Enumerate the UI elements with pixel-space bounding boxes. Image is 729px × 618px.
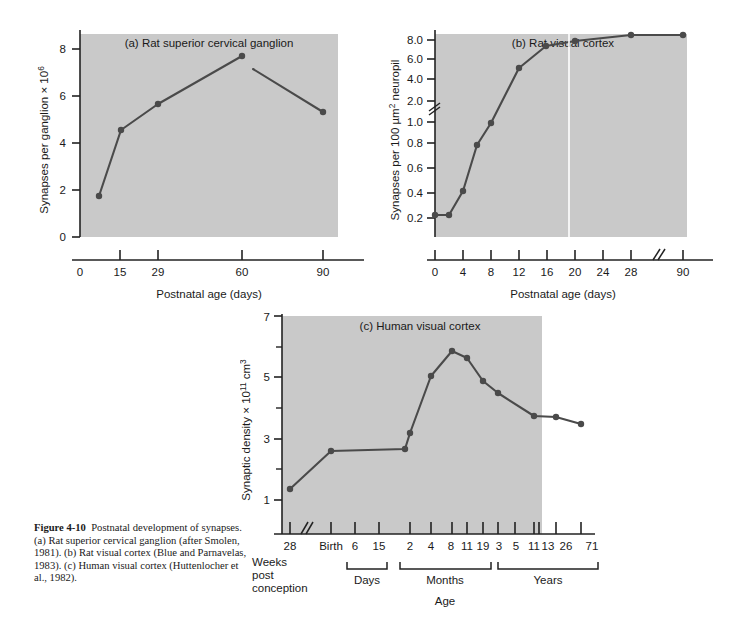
- panel-c-group-label-months: Months: [426, 574, 464, 586]
- panel-c-group-label-weeks-line3: conception: [252, 582, 308, 594]
- panel-b-x-axis-label: Postnatal age (days): [510, 288, 616, 300]
- panel-a-xtick-15: 15: [114, 266, 127, 278]
- panel-c-xtick-11mo: 11: [461, 540, 473, 552]
- panel-a-xtick-60: 60: [236, 266, 249, 278]
- panel-a-point: [118, 127, 124, 133]
- panel-c-ytick-5: 5: [264, 371, 270, 383]
- panel-c-point: [495, 390, 501, 396]
- svg-text:Synapses per 100 µm2 neuropil: Synapses per 100 µm2 neuropil: [388, 60, 401, 221]
- panel-c-xtick-13yr: 13: [542, 540, 555, 552]
- panel-c-point: [328, 448, 334, 454]
- panel-c-xtick-4mo: 4: [428, 540, 435, 552]
- panel-a-point: [96, 193, 102, 199]
- panel-c-xtick-28weeks: 28: [284, 540, 297, 552]
- panel-a-ytick-8: 8: [60, 43, 66, 55]
- panel-a-xtick-90: 90: [317, 266, 330, 278]
- panel-b-y-ticks: [427, 40, 435, 218]
- panel-a-ylabel-exp: 6: [37, 66, 46, 71]
- panel-c-ylabel-text: Synaptic density × 10: [240, 391, 252, 501]
- panel-a-point: [239, 53, 245, 59]
- panel-b-xtick-24: 24: [597, 266, 610, 278]
- panel-a-x-ticks: [120, 250, 323, 260]
- panel-b-ytick-5: 2.0: [407, 95, 423, 107]
- panel-b-rat-visual-cortex: 0.2 0.4 0.6 0.8 1.0 2.0 4.0 6.0 8.0 0 4 …: [383, 22, 723, 302]
- panel-c-xtick-26yr: 26: [560, 540, 573, 552]
- panel-c-point: [449, 348, 455, 354]
- panel-b-point: [572, 38, 578, 44]
- panel-a-point: [320, 109, 326, 115]
- panel-c-xtick-6days: 6: [352, 540, 358, 552]
- panel-b-point: [446, 212, 452, 218]
- panel-a-point: [155, 101, 161, 107]
- panel-b-point: [680, 32, 686, 38]
- panel-c-group-label-weeks-line2: post: [252, 569, 275, 581]
- panel-a-x-axis-label: Postnatal age (days): [156, 288, 262, 300]
- panel-c-human-visual-cortex: 1 3 5 7 28 Birth: [240, 310, 640, 610]
- panel-c-point: [428, 373, 434, 379]
- panel-c-point: [553, 414, 559, 420]
- panel-b-ytick-8: 8.0: [407, 34, 423, 46]
- panel-c-ytick-3: 3: [264, 433, 270, 445]
- panel-a-ytick-2: 2: [60, 184, 66, 196]
- panel-c-xtick-19mo: 19: [477, 540, 490, 552]
- figure-caption: Figure 4-10 Postnatal development of syn…: [34, 522, 250, 585]
- panel-c-xtick-15days: 15: [373, 540, 386, 552]
- panel-b-x-axis-break-icon: [653, 249, 665, 260]
- panel-b-xtick-90: 90: [677, 266, 690, 278]
- panel-c-xtick-5yr: 5: [513, 540, 519, 552]
- panel-a-ytick-0: 0: [60, 231, 66, 243]
- panel-c-x-axis-label: Age: [435, 595, 455, 607]
- panel-b-ytick-6: 4.0: [407, 73, 423, 85]
- panel-a-svg: 0 2 4 6 8 0 15 29 60 90 (a) Rat superior…: [34, 22, 374, 302]
- panel-b-ytick-0: 0.2: [407, 212, 423, 224]
- panel-c-y-axis-label: Synaptic density × 1011 cm3: [240, 359, 252, 501]
- panel-c-group-bracket-years: [498, 562, 598, 569]
- panel-c-group-label-days: Days: [354, 574, 380, 586]
- panel-b-plot-area: [435, 34, 687, 237]
- panel-c-ylabel-tail: cm: [240, 364, 252, 383]
- panel-b-svg: 0.2 0.4 0.6 0.8 1.0 2.0 4.0 6.0 8.0 0 4 …: [383, 22, 723, 302]
- figure-caption-label: Figure 4-10: [34, 522, 86, 533]
- panel-b-xtick-16: 16: [541, 266, 554, 278]
- panel-a-y-ticks: [72, 49, 80, 237]
- panel-a-y-axis-label: Synapses per ganglion × 106: [37, 66, 50, 214]
- panel-c-ytick-7: 7: [264, 311, 270, 323]
- panel-b-ylabel-text: Synapses per 100 µm: [389, 108, 401, 220]
- panel-a-xtick-0: 0: [77, 266, 83, 278]
- panel-b-x-ticks: [435, 250, 683, 260]
- panel-b-point: [543, 43, 549, 49]
- panel-b-y-axis-label: Synapses per 100 µm2 neuropil: [388, 60, 401, 221]
- panel-b-xtick-12: 12: [513, 266, 526, 278]
- panel-a-xtick-29: 29: [152, 266, 165, 278]
- panel-b-ytick-2: 0.6: [407, 162, 423, 174]
- svg-text:Synaptic density × 1011 cm3: Synaptic density × 1011 cm3: [240, 359, 252, 501]
- panel-a-ytick-6: 6: [60, 90, 66, 102]
- panel-c-xtick-11yr: 11: [528, 540, 540, 552]
- panel-c-group-label-years: Years: [534, 574, 563, 586]
- panel-c-group-bracket-months: [400, 562, 491, 569]
- panel-b-point: [460, 188, 466, 194]
- panel-c-svg: 1 3 5 7 28 Birth: [240, 310, 640, 610]
- panel-c-group-label-weeks-line1: Weeks: [252, 556, 287, 568]
- panel-b-ytick-4: 1.0: [407, 116, 423, 128]
- panel-c-point: [578, 421, 584, 427]
- panel-c-xtick-8mo: 8: [448, 540, 454, 552]
- panel-c-point: [287, 486, 293, 492]
- panel-b-point: [474, 142, 480, 148]
- panel-b-ytick-7: 6.0: [407, 53, 423, 65]
- panel-b-point: [628, 32, 634, 38]
- panel-c-xtick-71yr: 71: [586, 540, 599, 552]
- panel-b-ytick-1: 0.4: [407, 187, 424, 199]
- panel-b-xtick-0: 0: [432, 266, 438, 278]
- panel-c-ylabel-tail-exp: 3: [240, 359, 248, 364]
- svg-text:Synapses per ganglion × 106: Synapses per ganglion × 106: [37, 66, 50, 214]
- panel-c-point: [464, 355, 470, 361]
- panel-b-point: [432, 212, 438, 218]
- panel-c-xtick-3yr: 3: [496, 540, 502, 552]
- panel-b-ytick-3: 0.8: [407, 137, 423, 149]
- panel-c-group-bracket-days: [347, 562, 387, 569]
- panel-c-xtick-2mo: 2: [407, 540, 413, 552]
- panel-c-title: (c) Human visual cortex: [360, 320, 481, 332]
- panel-b-ylabel-tail: neuropil: [389, 60, 401, 104]
- panel-a-ylabel-text: Synapses per ganglion × 10: [38, 71, 50, 214]
